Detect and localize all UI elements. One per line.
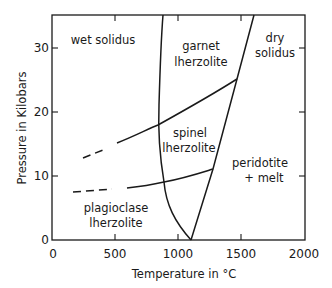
x-tick-label: 1000 bbox=[163, 247, 194, 261]
label-garnet: garnet bbox=[182, 39, 220, 53]
y-tick-label: 30 bbox=[34, 41, 49, 55]
label-plagioclase: plagioclase bbox=[84, 201, 149, 215]
label-dry-solidus: solidus bbox=[255, 46, 295, 60]
y-tick-label: 10 bbox=[34, 169, 49, 183]
label-spinel: spinel bbox=[173, 126, 207, 140]
label-plus-melt: + melt bbox=[244, 171, 284, 185]
label-plagioclase-lherzolite: lherzolite bbox=[89, 216, 142, 230]
x-axis-title: Temperature in °C bbox=[131, 267, 236, 281]
plagioclase-spinel-boundary bbox=[127, 169, 213, 188]
x-tick-label: 0 bbox=[49, 247, 57, 261]
label-wet-solidus: wet solidus bbox=[71, 33, 136, 47]
label-dry: dry bbox=[266, 31, 285, 45]
y-tick-label: 20 bbox=[34, 105, 49, 119]
y-axis-title: Pressure in Kilobars bbox=[15, 72, 29, 185]
label-spinel-lherzolite: lherzolite bbox=[162, 141, 215, 155]
x-tick-label: 500 bbox=[104, 247, 127, 261]
garnet-spinel-boundary-dashed bbox=[83, 150, 103, 158]
x-tick-label: 1500 bbox=[226, 247, 257, 261]
plagioclase-spinel-boundary-dashed bbox=[73, 189, 112, 192]
x-tick-label: 2000 bbox=[289, 247, 320, 261]
phase-diagram: 0 500 1000 1500 2000 0 10 20 30 Temperat… bbox=[0, 0, 332, 288]
y-tick-label: 0 bbox=[41, 233, 49, 247]
label-garnet-lherzolite: lherzolite bbox=[174, 55, 227, 69]
label-peridotite: peridotite bbox=[232, 156, 288, 170]
